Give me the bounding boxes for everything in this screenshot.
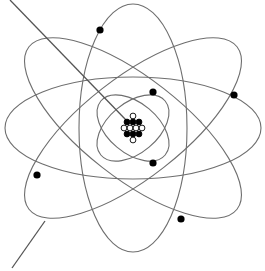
nucleus — [121, 113, 145, 143]
electron — [149, 159, 156, 166]
neutron — [130, 113, 136, 119]
proton — [124, 119, 130, 125]
atom-diagram-canvas — [0, 0, 265, 271]
proton — [124, 131, 130, 137]
atom-diagram — [0, 0, 265, 271]
neutron — [121, 125, 127, 131]
neutron — [139, 125, 145, 131]
proton — [130, 119, 136, 125]
electron — [177, 215, 184, 222]
electron — [33, 171, 40, 178]
electron — [230, 91, 237, 98]
neutron — [133, 125, 139, 131]
proton — [130, 131, 136, 137]
electron — [96, 26, 103, 33]
proton — [136, 119, 142, 125]
neutron — [130, 137, 136, 143]
electron — [149, 88, 156, 95]
proton — [136, 131, 142, 137]
pointer-lines — [10, 0, 126, 268]
neutron — [127, 125, 133, 131]
pointer-line-orbit — [12, 221, 45, 268]
